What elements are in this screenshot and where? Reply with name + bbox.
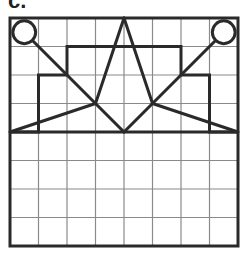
diagonal-line xyxy=(124,18,153,104)
diagonal-line xyxy=(124,40,216,132)
corner-circle xyxy=(13,21,36,44)
diagonal-line xyxy=(32,40,124,132)
grid-diagram xyxy=(0,0,246,271)
corner-circle xyxy=(212,21,235,44)
diagonal-line xyxy=(153,104,239,133)
diagonal-line xyxy=(10,104,96,133)
diagonal-line xyxy=(96,18,125,104)
